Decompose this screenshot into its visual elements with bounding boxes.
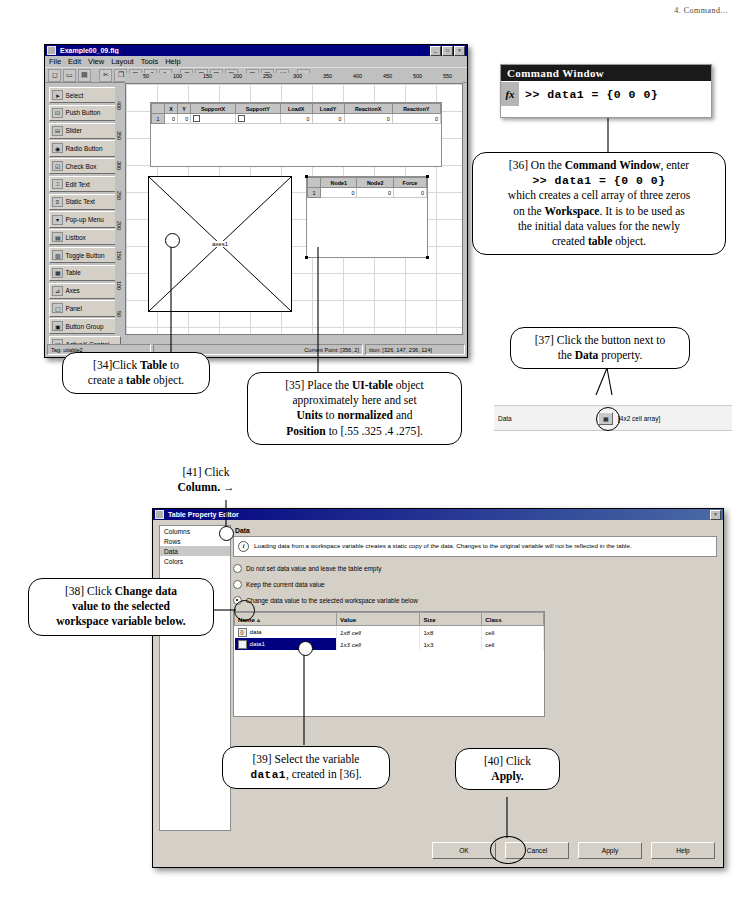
resize-handle-se[interactable]: [426, 256, 429, 259]
palette-item-push-button[interactable]: ⊡ Push Button: [49, 105, 121, 121]
palette-item-slider[interactable]: ⊟ Slider: [49, 123, 121, 139]
var-name-cell[interactable]: {}data: [235, 626, 337, 639]
component-palette[interactable]: ➤ Select ⊡ Push Button ⊟ Slider ◉ Radio …: [49, 87, 121, 354]
table-row-data1[interactable]: {}data1 1x3 cell 1x3 cell: [235, 638, 544, 650]
callout-38: [38] Click Change data value to the sele…: [28, 578, 214, 636]
palette-item-listbox[interactable]: ▤ Listbox: [49, 229, 121, 245]
palette-item-button-group[interactable]: ▣ Button Group: [49, 318, 121, 334]
radio-icon[interactable]: [233, 564, 242, 573]
uitable1-col-supportx[interactable]: SupportX: [191, 104, 236, 114]
highlight-circle-radio: [234, 600, 255, 621]
resize-handle-nw[interactable]: [305, 175, 308, 178]
var-col-class[interactable]: Class: [482, 613, 544, 626]
uitable2-cell-node1[interactable]: 0: [321, 188, 357, 198]
uitable2-cell-force[interactable]: 0: [393, 188, 426, 198]
uitable2-row[interactable]: 1 0 0 0: [308, 188, 427, 198]
palette-item-popup-menu[interactable]: ▾ Pop-up Menu: [49, 211, 121, 227]
uitable2-row-header: 1: [308, 188, 321, 198]
table-row-data[interactable]: {}data 1x8 cell 1x8 cell: [235, 626, 544, 639]
uitable1-cell-loady[interactable]: 0: [312, 114, 344, 124]
ok-button[interactable]: OK: [432, 842, 496, 859]
uitable1-cell-loadx[interactable]: 0: [280, 114, 312, 124]
uitable1-col-y[interactable]: Y: [178, 104, 191, 114]
ruler-tick: 50: [143, 73, 149, 79]
command-line[interactable]: >> data1 = {0 0 0}: [519, 88, 658, 101]
radio-label: Change data value to the selected worksp…: [246, 597, 418, 604]
help-button[interactable]: Help: [651, 842, 715, 859]
ruler-tick: 400: [353, 73, 362, 79]
var-col-size[interactable]: Size: [420, 613, 482, 626]
guide-figure-window[interactable]: Example00_09.fig _ □ × File Edit View La…: [44, 44, 468, 358]
uitable1-col-reactiony[interactable]: ReactionY: [392, 104, 440, 114]
uitable1-col-loadx[interactable]: LoadX: [280, 104, 312, 114]
open-icon[interactable]: ▭: [63, 69, 76, 82]
tpe-button-bar[interactable]: OK Cancel Apply Help: [432, 842, 715, 859]
uitable-2[interactable]: Node1 Node2 Force 1 0 0 0: [306, 176, 428, 258]
uitable2-col-force[interactable]: Force: [393, 178, 426, 188]
palette-item-radio-button[interactable]: ◉ Radio Button: [49, 140, 121, 156]
uitable1-cell-y[interactable]: 0: [178, 114, 191, 124]
palette-item-edit-text[interactable]: ⌶ Edit Text: [49, 176, 121, 192]
uitable-1[interactable]: X Y SupportX SupportY LoadX LoadY Reacti…: [150, 102, 442, 167]
tpe-sidebar[interactable]: Columns Rows Data Colors: [159, 525, 231, 831]
workspace-variable-table[interactable]: Name ▵ Value Size Class {}data 1x8 cell …: [233, 611, 545, 717]
checkbox-icon[interactable]: [238, 115, 245, 122]
radio-keep-current[interactable]: Keep the current data value: [233, 580, 717, 589]
var-name-cell[interactable]: {}data1: [235, 638, 337, 650]
apply-button[interactable]: Apply: [578, 842, 642, 859]
uitable2-col-node1[interactable]: Node1: [321, 178, 357, 188]
save-icon[interactable]: ▤: [78, 69, 91, 82]
palette-item-panel[interactable]: ▢ Panel: [49, 300, 121, 316]
uitable1-row[interactable]: 1 0 0 0 0 0 0: [152, 114, 441, 124]
menu-tools[interactable]: Tools: [141, 57, 159, 66]
radio-change-to-workspace-variable[interactable]: Change data value to the selected worksp…: [233, 596, 717, 605]
uitable1-col-reactionx[interactable]: ReactionX: [344, 104, 392, 114]
uitable1-cell-supportx[interactable]: [191, 114, 236, 124]
uitable1-col-loady[interactable]: LoadY: [312, 104, 344, 114]
radio-do-not-set[interactable]: Do not set data value and leave the tabl…: [233, 564, 717, 573]
var-col-value[interactable]: Value: [336, 613, 419, 626]
resize-handle-ne[interactable]: [426, 175, 429, 178]
sidebar-item-colors[interactable]: Colors: [160, 556, 230, 566]
new-icon[interactable]: ◻: [48, 69, 61, 82]
palette-item-check-box[interactable]: ☑ Check Box: [49, 158, 121, 174]
cut-icon[interactable]: ✂: [99, 69, 112, 82]
palette-item-axes[interactable]: ⊿ Axes: [49, 283, 121, 299]
palette-label: Table: [66, 269, 81, 276]
uitable1-cell-supporty[interactable]: [235, 114, 280, 124]
uitable1-cell-reactiony[interactable]: 0: [392, 114, 440, 124]
figure-canvas[interactable]: X Y SupportX SupportY LoadX LoadY Reacti…: [125, 83, 463, 335]
command-window-body[interactable]: fx >> data1 = {0 0 0}: [501, 81, 711, 107]
radio-icon[interactable]: [233, 580, 242, 589]
guide-window-title: Example00_09.fig: [58, 47, 430, 54]
uitable1-cell-x[interactable]: 0: [165, 114, 178, 124]
maximize-button[interactable]: □: [442, 46, 453, 56]
palette-item-select[interactable]: ➤ Select: [49, 87, 121, 103]
menu-view[interactable]: View: [88, 57, 104, 66]
sidebar-item-data[interactable]: Data: [160, 546, 230, 556]
minimize-button[interactable]: _: [430, 46, 441, 56]
menu-layout[interactable]: Layout: [111, 57, 134, 66]
callout-34: [34]Click Table to create a table object…: [62, 352, 210, 394]
command-window-snippet[interactable]: Command Window fx >> data1 = {0 0 0}: [500, 64, 712, 118]
uitable1-col-supporty[interactable]: SupportY: [235, 104, 280, 114]
menu-file[interactable]: File: [49, 57, 61, 66]
table-property-editor-dialog[interactable]: Table Property Editor × Columns Rows Dat…: [152, 508, 724, 868]
uitable2-cell-node2[interactable]: 0: [357, 188, 393, 198]
window-buttons[interactable]: _ □ ×: [430, 46, 465, 56]
toggle-button-icon: ▥: [52, 250, 63, 260]
palette-label: Pop-up Menu: [66, 216, 104, 223]
close-button[interactable]: ×: [454, 46, 465, 56]
uitable2-col-node2[interactable]: Node2: [357, 178, 393, 188]
menu-help[interactable]: Help: [165, 57, 180, 66]
palette-item-table[interactable]: ▦ Table: [49, 265, 121, 281]
guide-menubar[interactable]: File Edit View Layout Tools Help: [45, 56, 467, 67]
uitable1-cell-reactionx[interactable]: 0: [344, 114, 392, 124]
palette-item-static-text[interactable]: ≡ Static Text: [49, 194, 121, 210]
checkbox-icon[interactable]: [193, 115, 200, 122]
palette-item-toggle-button[interactable]: ▥ Toggle Button: [49, 247, 121, 263]
tpe-close-button[interactable]: ×: [710, 510, 721, 520]
resize-handle-sw[interactable]: [305, 256, 308, 259]
menu-edit[interactable]: Edit: [68, 57, 81, 66]
uitable1-col-x[interactable]: X: [165, 104, 178, 114]
